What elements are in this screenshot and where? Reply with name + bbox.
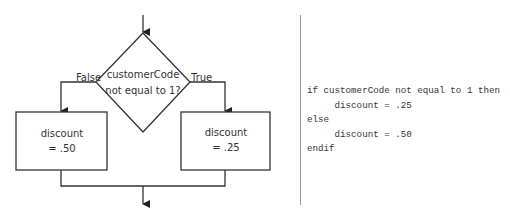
decision-text-line1: customerCode <box>107 69 180 80</box>
decision-diamond <box>96 33 190 132</box>
true-process-box <box>181 112 270 170</box>
code-line: else <box>307 113 500 128</box>
left-box-text-line2: = .50 <box>48 143 75 154</box>
code-line: endif <box>307 142 500 157</box>
flowchart <box>0 0 300 212</box>
false-process-box <box>16 112 107 170</box>
join-line <box>61 170 225 186</box>
code-line: discount = .50 <box>307 128 500 143</box>
pseudocode-block: if customerCode not equal to 1 then disc… <box>307 84 500 157</box>
divider-line <box>300 15 301 205</box>
code-line: if customerCode not equal to 1 then <box>307 84 500 99</box>
true-branch-line <box>190 82 225 111</box>
true-label: True <box>191 72 212 83</box>
decision-text-line2: not equal to 1? <box>105 85 180 96</box>
false-branch-line <box>61 82 96 111</box>
code-line: discount = .25 <box>307 99 500 114</box>
right-box-text-line1: discount <box>205 127 248 138</box>
right-box-text-line2: = .25 <box>212 142 239 153</box>
false-label: False <box>76 72 101 83</box>
left-box-text-line1: discount <box>41 128 84 139</box>
